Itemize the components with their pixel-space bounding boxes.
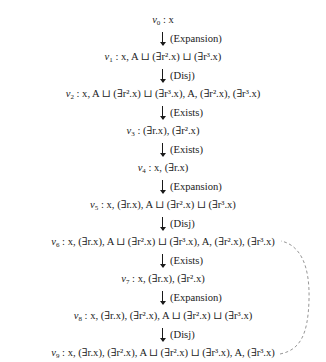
back-edge-dashed-curve (0, 0, 326, 362)
